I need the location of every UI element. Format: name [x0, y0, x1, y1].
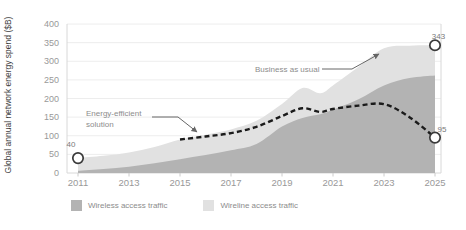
- y-tick-label: 50: [33, 149, 59, 159]
- data-point-marker: [430, 40, 440, 50]
- x-tick-label: 2021: [317, 177, 349, 188]
- y-tick-label: 100: [33, 131, 59, 141]
- y-tick-label: 0: [33, 168, 59, 178]
- energy-spend-chart: Global annual network energy spend ($B) …: [0, 0, 466, 230]
- x-tick-label: 2023: [368, 177, 400, 188]
- x-tick-label: 2011: [62, 177, 94, 188]
- y-tick-label: 300: [33, 56, 59, 66]
- plot-svg: [0, 0, 466, 230]
- y-tick-label: 150: [33, 112, 59, 122]
- annotation-business-as-usual: Business as usual: [255, 64, 325, 75]
- data-point-marker: [430, 132, 440, 142]
- x-tick-label: 2013: [113, 177, 145, 188]
- x-tick-label: 2015: [164, 177, 196, 188]
- legend-item-wireless: Wireless access traffic: [71, 200, 167, 211]
- y-tick-label: 350: [33, 38, 59, 48]
- y-tick-label: 200: [33, 94, 59, 104]
- wireline-swatch-icon: [203, 200, 214, 211]
- point-label: 40: [60, 140, 82, 149]
- legend: Wireless access traffic Wireline access …: [71, 200, 298, 211]
- energy-efficient-arrow: [152, 117, 197, 132]
- legend-label-wireline: Wireline access traffic: [220, 201, 298, 210]
- annotation-energy-efficient: Energy-efficient solution: [86, 108, 158, 130]
- x-tick-label: 2017: [215, 177, 247, 188]
- point-label: 343: [428, 32, 450, 41]
- point-label: 95: [431, 125, 453, 134]
- data-point-marker: [73, 153, 83, 163]
- y-tick-label: 250: [33, 75, 59, 85]
- legend-label-wireless: Wireless access traffic: [88, 201, 167, 210]
- x-tick-label: 2025: [419, 177, 451, 188]
- y-tick-label: 400: [33, 19, 59, 29]
- x-tick-label: 2019: [266, 177, 298, 188]
- wireless-swatch-icon: [71, 200, 82, 211]
- legend-item-wireline: Wireline access traffic: [203, 200, 298, 211]
